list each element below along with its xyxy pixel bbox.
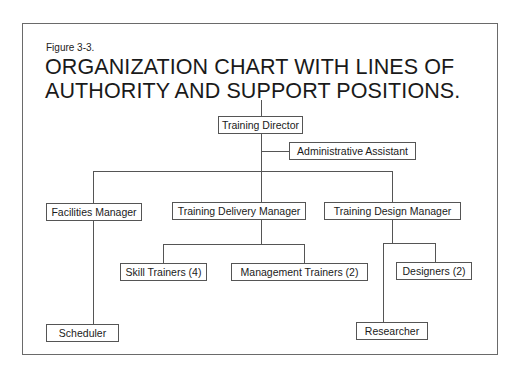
node-skill-trainers: Skill Trainers (4) xyxy=(120,263,207,281)
connector-scheduler xyxy=(93,221,94,324)
connector-designers xyxy=(435,243,436,262)
connector-design-bar xyxy=(383,243,435,244)
node-management-trainers: Management Trainers (2) xyxy=(231,263,368,281)
figure-title: ORGANIZATION CHART WITH LINES OF AUTHORI… xyxy=(45,55,460,103)
connector-delivery-down xyxy=(261,220,262,244)
node-administrative-assistant: Administrative Assistant xyxy=(289,142,416,160)
node-scheduler: Scheduler xyxy=(46,324,119,342)
connector-facilities xyxy=(93,171,94,203)
figure-title-line-2: AUTHORITY AND SUPPORT POSITIONS. xyxy=(45,79,460,103)
connector-management-trainers xyxy=(304,244,305,263)
connector-researcher xyxy=(383,243,384,322)
connector-skill-trainers xyxy=(163,244,164,263)
figure-title-line-1: ORGANIZATION CHART WITH LINES OF xyxy=(45,55,460,79)
connector-design xyxy=(392,171,393,202)
node-training-design-manager: Training Design Manager xyxy=(324,202,461,220)
connector-delivery-bar xyxy=(163,244,304,245)
node-facilities-manager: Facilities Manager xyxy=(46,203,142,221)
connector-top xyxy=(261,100,262,116)
connector-design-down xyxy=(392,219,393,243)
connector-director-trunk xyxy=(261,133,262,203)
node-training-delivery-manager: Training Delivery Manager xyxy=(172,202,306,220)
figure-label: Figure 3-3. xyxy=(46,42,94,53)
node-training-director: Training Director xyxy=(218,116,303,134)
connector-manager-bar xyxy=(93,171,393,172)
node-designers: Designers (2) xyxy=(396,262,472,280)
node-researcher: Researcher xyxy=(356,322,428,340)
connector-admin-branch xyxy=(261,151,289,152)
